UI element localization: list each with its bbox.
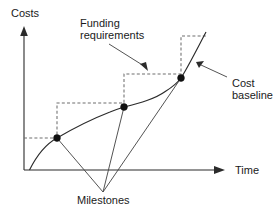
y-axis-label: Costs [11, 7, 40, 19]
funding-requirements-callout-group [109, 44, 148, 71]
cost-baseline-callout-group [196, 61, 227, 77]
cost-baseline-curve-group [30, 32, 207, 170]
cost-baseline-callout-line [201, 65, 227, 77]
milestone-leader-line-2 [103, 107, 124, 192]
funding-requirements-step-group [24, 36, 207, 138]
funding-requirements-label-line2: requirements [80, 29, 145, 41]
milestone-leader-line-3 [103, 78, 181, 192]
milestone-dot-2 [121, 104, 128, 111]
milestone-leader-line-1 [57, 138, 103, 192]
milestones-label: Milestones [77, 194, 130, 206]
cost-baseline-label-line2: baseline [232, 89, 273, 101]
funding-requirements-label-line1: Funding [80, 17, 120, 29]
cost-baseline-arrow-head-icon [196, 61, 204, 68]
cost-baseline-label-line1: Cost [232, 77, 255, 89]
x-axis-label: Time [235, 164, 259, 176]
funding-requirements-arrow-head-icon [140, 62, 148, 71]
funding-requirements-callout-line [109, 44, 144, 66]
axis-group [20, 26, 225, 174]
milestone-leader-group [57, 78, 181, 192]
funding-requirements-step-line [24, 36, 207, 138]
cost-baseline-diagram: Costs Time Funding requirements Cost bas… [0, 0, 276, 220]
milestone-dot-3 [178, 75, 185, 82]
y-axis-arrow-up-icon [20, 26, 28, 36]
diagram-canvas: Costs Time Funding requirements Cost bas… [0, 0, 276, 220]
x-axis-arrow-right-icon [214, 166, 225, 174]
cost-baseline-curve [30, 32, 207, 170]
milestone-dot-1 [54, 135, 61, 142]
